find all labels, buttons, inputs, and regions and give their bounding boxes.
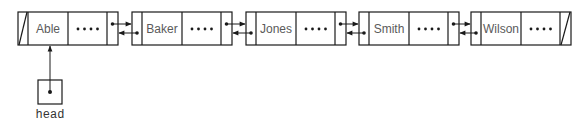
list-node: Able: [18, 12, 118, 45]
linked-list-diagram: AbleBakerJonesSmithWilson head: [0, 0, 588, 127]
node-value: Smith: [374, 22, 405, 36]
list-node: Smith: [359, 12, 459, 45]
list-node: Jones: [246, 12, 346, 45]
nodes-layer: AbleBakerJonesSmithWilson: [18, 12, 571, 45]
ellipsis-dots: [530, 28, 552, 31]
head-label: head: [36, 108, 65, 122]
node-value: Able: [36, 22, 60, 36]
list-node: Baker: [132, 12, 232, 45]
ellipsis-dots: [418, 28, 440, 31]
node-value: Wilson: [483, 22, 519, 36]
node-value: Baker: [146, 22, 177, 36]
ellipsis-dots: [77, 28, 99, 31]
null-next-slash: [561, 12, 570, 45]
ellipsis-dots: [305, 28, 327, 31]
ellipsis-dots: [191, 28, 213, 31]
diagram-canvas: AbleBakerJonesSmithWilson head: [0, 0, 588, 127]
head-pointer: head: [36, 46, 65, 122]
null-prev-slash: [19, 12, 27, 45]
list-node: Wilson: [471, 12, 571, 45]
node-value: Jones: [260, 22, 292, 36]
